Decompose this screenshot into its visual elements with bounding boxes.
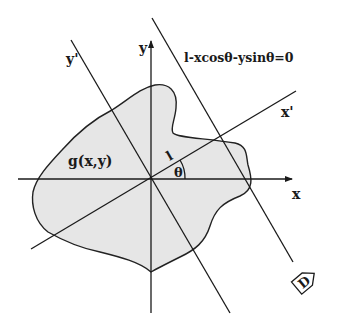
line-equation-label: l-xcosθ-ysinθ=0 <box>184 50 294 65</box>
x-axis-label: x <box>292 186 301 202</box>
radon-geometry-diagram: y x y' x' l-xcosθ-ysinθ=0 g(x,y) l θ D <box>0 0 337 329</box>
angle-label: θ <box>174 165 183 180</box>
y-prime-label: y' <box>65 51 78 67</box>
object-region <box>33 85 251 272</box>
x-prime-label: x' <box>281 104 294 120</box>
y-axis-label: y <box>138 40 148 56</box>
marker-d-icon: D <box>291 267 319 294</box>
function-label: g(x,y) <box>68 153 112 169</box>
